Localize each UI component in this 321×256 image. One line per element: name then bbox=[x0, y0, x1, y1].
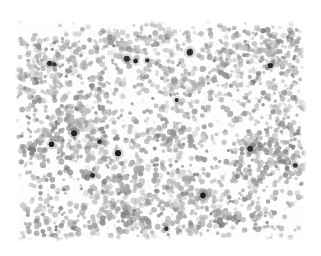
micrograph-page bbox=[0, 0, 321, 256]
micrograph-field bbox=[14, 20, 307, 242]
micrograph-canvas bbox=[14, 20, 307, 242]
